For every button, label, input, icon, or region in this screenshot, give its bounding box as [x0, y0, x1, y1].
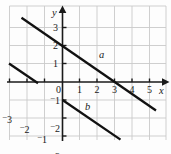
origin-label: 0	[56, 85, 61, 95]
x-tick-label-3: 3	[112, 85, 117, 95]
x-tick-label-neg-3: 3	[7, 115, 171, 125]
x-tick-label-4: 4	[130, 85, 135, 95]
coordinate-graph-figure: y x 3 2 1 1 2 3 0 3 2 1 1 2 3 4 5 a b	[0, 0, 171, 154]
x-axis-label: x	[159, 86, 164, 97]
series-label-b: b	[85, 102, 90, 113]
y-tick-label-1: 1	[53, 59, 58, 69]
x-tick-label-2: 2	[95, 85, 100, 95]
y-tick-label-neg-1: 1	[55, 96, 171, 106]
series-label-a: a	[99, 50, 104, 61]
y-tick-label-3: 3	[53, 23, 58, 33]
y-axis-label: y	[52, 8, 57, 19]
x-tick-label-5: 5	[147, 85, 152, 95]
x-tick-label-1: 1	[77, 85, 82, 95]
y-tick-label-neg-3: 3	[55, 152, 171, 154]
y-tick-label-2: 2	[53, 41, 58, 51]
line-b-left-segment	[9, 64, 38, 84]
x-tick-label-neg-1: 1	[42, 135, 171, 145]
